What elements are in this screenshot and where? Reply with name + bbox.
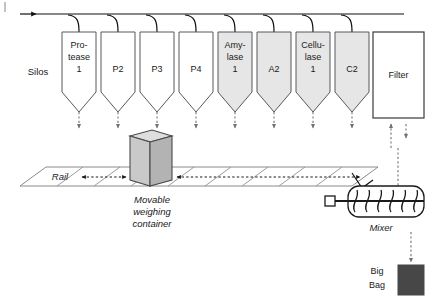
mixer-motor [325,196,335,206]
container-label-line-3: container [132,218,172,229]
silo-7-label-line-1: Cellu- [301,40,325,50]
big-bag-unit[interactable]: Big Bag [369,232,424,295]
big-bag-shape [398,265,424,295]
silo-5-label-line-3: 1 [232,64,237,74]
silo-2-label: P2 [112,64,123,74]
filter-label: Filter [389,70,409,80]
silo-5-label-line-1: Amy- [225,40,246,50]
silo-1-label-line-1: Pro- [70,40,87,50]
silo-6-label: A2 [268,64,279,74]
container-label-line-2: weighing [133,206,171,217]
silo-4[interactable]: P4 [179,32,213,128]
feed-branch-group [68,15,352,32]
silo-3[interactable]: P3 [140,32,174,128]
big-bag-label-line-2: Bag [369,280,385,290]
silo-1-label-line-2: tease [68,52,90,62]
process-flow-diagram: Pro- tease 1 P2 P3 P4 Amy- lase [0,0,439,303]
silo-4-label: P4 [190,64,201,74]
silo-7[interactable]: Cellu- lase 1 [296,32,330,128]
rail: Rail [20,167,378,186]
silo-1-label-line-3: 1 [76,64,81,74]
diagram-canvas: Pro- tease 1 P2 P3 P4 Amy- lase [0,0,439,303]
silos-group-label: Silos [28,66,49,77]
big-bag-label-line-1: Big [370,266,383,276]
container-side-face [150,136,172,186]
silo-6[interactable]: A2 [257,32,291,128]
silo-8[interactable]: C2 [335,32,369,128]
silo-5-label-line-2: lase [227,52,244,62]
silo-7-label-line-2: lase [305,52,322,62]
silo-3-label: P3 [151,64,162,74]
silo-8-label: C2 [346,64,358,74]
rail-label: Rail [52,171,69,182]
mixer-label: Mixer [369,222,393,233]
silo-1[interactable]: Pro- tease 1 [62,32,96,128]
silo-5[interactable]: Amy- lase 1 [218,32,252,128]
silo-7-label-line-3: 1 [310,64,315,74]
silo-2[interactable]: P2 [101,32,135,128]
movable-weighing-container[interactable]: Movable weighing container [130,130,172,229]
container-label-line-1: Movable [134,194,170,205]
filter-unit[interactable]: Filter [373,32,424,186]
container-front-face [130,136,150,186]
